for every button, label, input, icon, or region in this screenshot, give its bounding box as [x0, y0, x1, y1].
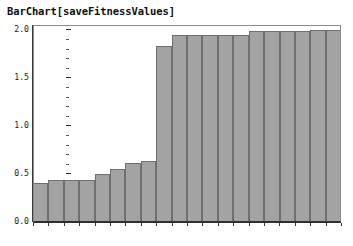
bar: [172, 35, 187, 222]
x-axis-tick: [249, 223, 250, 226]
x-axis-tick: [95, 223, 96, 226]
bars-container: [33, 25, 341, 222]
bar: [202, 35, 217, 222]
x-axis-tick: [264, 223, 265, 226]
bar: [264, 31, 279, 222]
bar: [79, 180, 94, 222]
bar: [125, 163, 140, 222]
x-axis-tick: [110, 223, 111, 226]
bar: [33, 183, 48, 222]
bar: [48, 180, 63, 222]
y-axis-tick-label: 2.0: [14, 24, 29, 35]
bar: [280, 31, 295, 222]
y-axis: 0.00.51.01.52.0: [0, 25, 33, 222]
bar: [156, 46, 171, 222]
bar: [295, 31, 310, 222]
x-axis-tick: [125, 223, 126, 226]
x-axis-tick: [279, 223, 280, 226]
bar: [326, 30, 341, 222]
y-axis-tick-label: 0.0: [14, 216, 29, 227]
x-axis-tick: [33, 223, 34, 226]
y-axis-line: [32, 25, 33, 222]
bar: [233, 35, 248, 222]
bar: [95, 174, 110, 222]
x-axis-tick: [218, 223, 219, 226]
x-axis-tick: [79, 223, 80, 226]
y-axis-tick-label: 1.5: [14, 72, 29, 83]
x-axis-tick: [233, 223, 234, 226]
x-axis-tick: [295, 223, 296, 226]
x-axis: [33, 222, 341, 232]
x-axis-tick: [172, 223, 173, 226]
x-axis-tick: [187, 223, 188, 226]
bar: [218, 35, 233, 222]
x-axis-tick: [310, 223, 311, 226]
x-axis-tick: [141, 223, 142, 226]
y-axis-tick-label: 0.5: [14, 168, 29, 179]
x-axis-tick: [202, 223, 203, 226]
x-axis-tick: [64, 223, 65, 226]
x-axis-tick: [341, 223, 342, 226]
bar: [249, 31, 264, 222]
bar: [64, 180, 79, 222]
x-axis-tick: [48, 223, 49, 226]
x-axis-tick: [326, 223, 327, 226]
x-axis-tick: [156, 223, 157, 226]
bar: [141, 161, 156, 223]
bar-chart: BarChart[saveFitnessValues] 0.00.51.01.5…: [0, 0, 353, 246]
plot-area: [33, 25, 341, 222]
y-axis-tick-label: 1.0: [14, 120, 29, 131]
bar: [310, 30, 325, 222]
bar: [187, 35, 202, 222]
chart-title: BarChart[saveFitnessValues]: [7, 5, 175, 17]
bar: [110, 169, 125, 222]
